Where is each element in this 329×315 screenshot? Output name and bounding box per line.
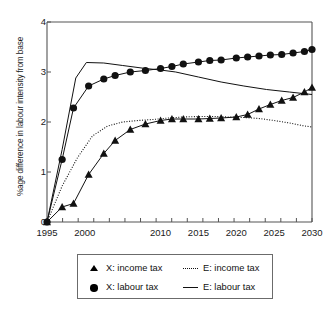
data-point-marker — [278, 51, 285, 58]
triangle-marker-icon — [85, 262, 103, 274]
data-point-marker — [267, 51, 274, 58]
data-point-marker — [266, 101, 274, 108]
legend-label: E: income tax — [203, 263, 259, 273]
data-point-marker — [195, 58, 202, 65]
data-point-marker — [301, 48, 308, 55]
data-point-marker — [244, 53, 251, 60]
x-tick-label: 2025 — [264, 227, 285, 238]
data-point-marker — [70, 200, 78, 207]
circle-marker-icon — [85, 281, 103, 293]
data-point-marker — [85, 82, 92, 89]
data-point-marker — [244, 111, 252, 118]
data-point-marker — [127, 68, 134, 75]
data-point-marker — [112, 72, 119, 79]
data-point-marker — [100, 75, 107, 82]
series-x-income-tax — [43, 84, 316, 226]
legend-item-x-labour-tax: X: labour tax — [85, 278, 158, 296]
data-point-marker — [308, 46, 315, 53]
data-point-marker — [233, 54, 240, 61]
solid-line-icon — [182, 281, 200, 293]
data-point-marker — [289, 94, 297, 101]
x-tick-label: 2010 — [150, 227, 171, 238]
legend-label: X: income tax — [106, 263, 162, 273]
data-point-marker — [126, 126, 134, 133]
dotted-line-icon — [182, 262, 200, 274]
data-point-marker — [168, 63, 175, 70]
data-point-marker — [308, 84, 316, 91]
data-point-marker — [289, 49, 296, 56]
x-tick-label: 2030 — [301, 227, 322, 238]
data-point-marker — [111, 137, 119, 144]
data-point-marker — [157, 65, 164, 72]
x-tick-label: 2015 — [188, 227, 209, 238]
x-tick-label: 2000 — [74, 227, 95, 238]
x-tick-label: 1995 — [36, 227, 57, 238]
chart-legend: X: income tax E: income tax X: labour ta… — [77, 254, 273, 299]
data-point-marker — [206, 57, 213, 64]
data-point-marker — [180, 60, 187, 67]
legend-label: X: labour tax — [106, 282, 158, 292]
chart-figure: %age difference in labour intensity from… — [0, 0, 329, 315]
data-series-layer — [43, 46, 316, 226]
legend-item-e-labour-tax: E: labour tax — [182, 278, 255, 296]
data-point-marker — [218, 56, 225, 63]
data-point-marker — [85, 171, 93, 178]
data-point-marker — [255, 105, 263, 112]
legend-item-x-income-tax: X: income tax — [85, 259, 162, 277]
series-e-income-tax — [47, 117, 312, 223]
legend-item-e-income-tax: E: income tax — [182, 259, 259, 277]
data-point-marker — [255, 52, 262, 59]
x-tick-label: 2020 — [226, 227, 247, 238]
legend-label: E: labour tax — [203, 282, 255, 292]
x-axis-tick-labels: 1995200020102015202020252030 — [0, 227, 329, 241]
